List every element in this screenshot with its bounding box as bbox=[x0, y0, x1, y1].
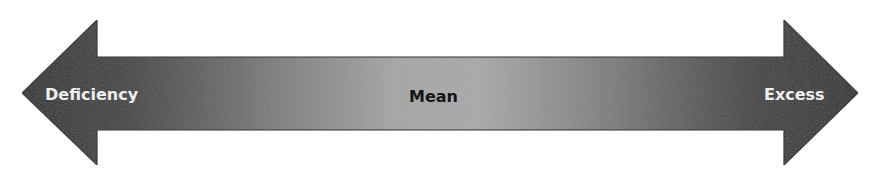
excess-label: Excess bbox=[764, 85, 825, 105]
deficiency-label: Deficiency bbox=[45, 85, 138, 105]
mean-label: Mean bbox=[409, 87, 458, 107]
